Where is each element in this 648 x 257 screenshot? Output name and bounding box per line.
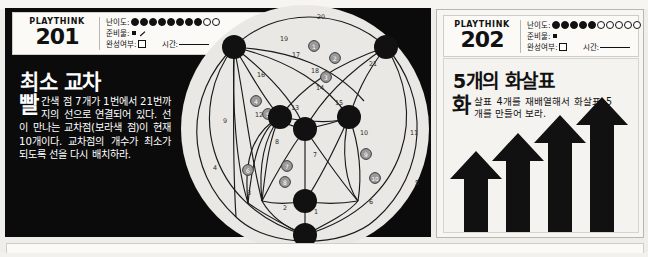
next-puzzle-sliver xyxy=(6,243,644,253)
difficulty-row: 난이도: xyxy=(527,19,634,30)
svg-text:16: 16 xyxy=(257,71,265,79)
materials-icons xyxy=(132,30,146,36)
difficulty-label: 난이도: xyxy=(106,16,130,27)
square-icon xyxy=(132,31,136,35)
svg-text:3: 3 xyxy=(247,189,251,197)
svg-text:13: 13 xyxy=(291,104,299,112)
difficulty-dot-filled xyxy=(570,21,578,29)
svg-text:7: 7 xyxy=(313,151,317,159)
difficulty-dots xyxy=(552,21,641,29)
difficulty-dot-filled xyxy=(552,21,560,29)
puzzle-202-identity: PLAYTHINK 202 xyxy=(447,20,517,51)
svg-text:9: 9 xyxy=(364,151,368,158)
puzzle-202-header: PLAYTHINK 202 난이도: 준비물: 완성여부: xyxy=(443,15,639,57)
difficulty-dot-filled xyxy=(131,18,139,26)
svg-text:11: 11 xyxy=(410,129,418,137)
svg-text:12: 12 xyxy=(255,111,263,119)
puzzle-201-title: 최소 교차 xyxy=(20,65,101,95)
puzzle-201-body-text: 간색 점 7개가 1번에서 21번까지의 선으로 연결되어 있다. 선이 만나는… xyxy=(19,96,171,160)
svg-text:21: 21 xyxy=(369,60,377,68)
materials-icons xyxy=(553,34,557,38)
materials-row: 준비물: xyxy=(527,30,634,41)
svg-text:8: 8 xyxy=(275,138,279,146)
puzzle-number: 202 xyxy=(447,29,517,51)
svg-text:15: 15 xyxy=(335,99,343,107)
puzzle-201-panel: PLAYTHINK 201 난이도: 준비물: xyxy=(6,9,430,236)
completion-checkbox[interactable] xyxy=(138,40,146,48)
difficulty-dot-empty xyxy=(615,21,623,29)
puzzle-201-body: 빨간색 점 7개가 1번에서 21번까지의 선으로 연결되어 있다. 선이 만나… xyxy=(19,95,171,161)
time-label: 시간: xyxy=(583,41,600,52)
svg-text:3: 3 xyxy=(324,74,328,81)
materials-label: 준비물: xyxy=(527,30,551,41)
puzzle-number: 201 xyxy=(18,26,96,48)
svg-text:6: 6 xyxy=(369,198,373,206)
svg-text:4: 4 xyxy=(213,164,217,172)
svg-text:9: 9 xyxy=(223,117,227,125)
difficulty-dot-empty xyxy=(597,21,605,29)
svg-text:2: 2 xyxy=(333,55,337,62)
puzzle-201-identity: PLAYTHINK 201 xyxy=(18,17,96,48)
puzzle-202-panel: PLAYTHINK 202 난이도: 준비물: 완성여부: xyxy=(436,9,644,238)
difficulty-dot-filled xyxy=(149,18,157,26)
svg-text:7: 7 xyxy=(285,163,289,170)
drop-cap: 빨 xyxy=(19,95,39,115)
svg-text:1: 1 xyxy=(314,208,318,216)
svg-text:8: 8 xyxy=(283,179,287,186)
header-divider xyxy=(99,17,100,50)
completion-label: 완성여부: xyxy=(527,41,558,52)
difficulty-dot-empty xyxy=(633,21,641,29)
arrow-3 xyxy=(534,115,586,232)
difficulty-dot-filled xyxy=(561,21,569,29)
completion-label: 완성여부: xyxy=(106,38,137,49)
svg-text:18: 18 xyxy=(311,67,319,75)
difficulty-dot-empty xyxy=(624,21,632,29)
arrow-4 xyxy=(576,97,628,232)
difficulty-dot-empty xyxy=(606,21,614,29)
completion-checkbox[interactable] xyxy=(559,43,567,51)
puzzle-202-card: 5개의 화살표 화살표 4개를 재배열해서 화살표 5개를 만들어 보라. xyxy=(443,58,639,233)
svg-text:10: 10 xyxy=(360,129,368,137)
difficulty-dot-filled xyxy=(140,18,148,26)
difficulty-dot-filled xyxy=(579,21,587,29)
svg-text:19: 19 xyxy=(280,35,288,43)
difficulty-dot-filled xyxy=(588,21,596,29)
svg-text:1: 1 xyxy=(312,43,316,50)
arrow-1 xyxy=(450,151,502,232)
svg-text:6: 6 xyxy=(246,167,250,174)
svg-text:17: 17 xyxy=(292,51,300,59)
svg-text:10: 10 xyxy=(371,176,379,182)
svg-text:14: 14 xyxy=(316,84,324,92)
svg-text:4: 4 xyxy=(254,98,258,105)
header-divider xyxy=(520,20,521,53)
svg-text:20: 20 xyxy=(317,13,325,21)
square-icon xyxy=(553,34,557,38)
difficulty-dot-filled xyxy=(158,18,166,26)
arrow-2 xyxy=(492,133,544,232)
completion-row: 완성여부: 시간: xyxy=(527,41,634,52)
pencil-icon xyxy=(139,30,146,36)
svg-text:2: 2 xyxy=(283,204,287,212)
time-write-line[interactable] xyxy=(600,46,630,48)
minimum-crossings-graph: 1 2 3 4 5 6 7 8 xyxy=(174,5,436,257)
four-arrows-illustration xyxy=(444,59,638,232)
puzzle-202-meta: 난이도: 준비물: 완성여부: 시간: xyxy=(527,19,634,52)
difficulty-label: 난이도: xyxy=(527,19,551,30)
svg-text:5: 5 xyxy=(415,179,419,187)
materials-label: 준비물: xyxy=(106,27,130,38)
